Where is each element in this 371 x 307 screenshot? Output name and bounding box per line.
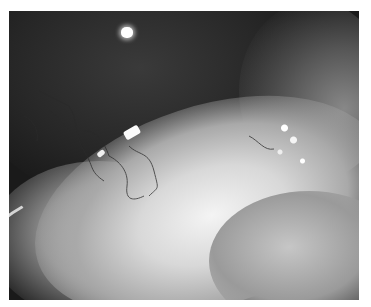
- light-reflex: [121, 27, 133, 38]
- eye-photograph: [9, 11, 359, 300]
- tear-film-sparkles: [271, 116, 316, 176]
